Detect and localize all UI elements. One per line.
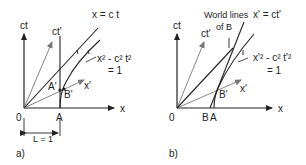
caption-a: a): [16, 148, 25, 159]
label-x-prime: x': [84, 80, 91, 91]
label-A: A: [56, 112, 63, 123]
label-x: x: [278, 103, 283, 114]
label-ct-prime: ct': [201, 28, 211, 39]
label-A: A: [210, 112, 217, 123]
label-hyperbola-1: x'² - c² t'²: [253, 52, 292, 63]
label-hyperbola-1: x² - c² t²: [97, 53, 132, 64]
panel-b: ct ct' World lines of B x' = ct' x'² - c…: [169, 9, 292, 159]
label-light-line: x = c t: [92, 9, 119, 20]
label-x-prime: x': [240, 83, 247, 94]
label-origin: 0: [16, 112, 22, 123]
label-hyperbola-2: = 1: [267, 65, 282, 76]
label-A-prime: A': [48, 81, 57, 92]
label-hyperbola-2: = 1: [108, 65, 123, 76]
label-ct-prime: ct': [52, 26, 62, 37]
caption-b: b): [169, 148, 178, 159]
relativity-diagram: ct ct' x = c t x² - c² t² = 1 A' B' x' x…: [0, 0, 306, 165]
pointer-line: [86, 57, 96, 62]
point-A-prime: [58, 88, 61, 91]
label-world-lines-2: of B: [216, 22, 232, 32]
label-B-prime: B': [64, 89, 73, 100]
label-length: L = 1: [33, 134, 53, 144]
tick-mark: [77, 50, 78, 54]
label-B-prime: B': [219, 89, 228, 100]
label-B: B: [202, 112, 209, 123]
panel-a: ct ct' x = c t x² - c² t² = 1 A' B' x' x…: [16, 9, 132, 159]
label-origin: 0: [169, 112, 175, 123]
label-world-lines-1: World lines: [204, 10, 249, 20]
ct-prime-axis: [24, 42, 52, 108]
label-light-line: x' = ct': [253, 9, 281, 20]
label-ct: ct: [20, 20, 28, 31]
pointer-line: [238, 58, 248, 62]
label-x: x: [120, 103, 125, 114]
label-ct: ct: [173, 20, 181, 31]
